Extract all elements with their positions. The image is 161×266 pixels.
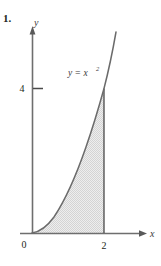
x-tick-label-2: 2	[102, 240, 107, 251]
y-axis	[30, 26, 36, 233]
y-axis-label: y	[33, 17, 39, 28]
figure-container: 1.	[0, 0, 161, 266]
origin-label: 0	[22, 239, 27, 250]
curve-equation-label: y = x	[67, 68, 88, 78]
shaded-region	[32, 89, 104, 234]
x-axis-label: x	[149, 228, 155, 239]
y-tick-label-4: 4	[20, 83, 25, 94]
curve-equation-exponent: 2	[96, 65, 100, 72]
plot-canvas: y x 4 0 2 y = x 2	[0, 0, 161, 266]
